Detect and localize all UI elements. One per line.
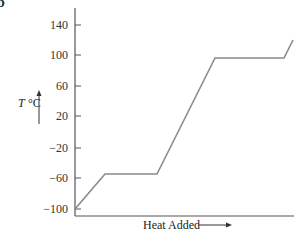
y-axis-label: T °C bbox=[18, 90, 42, 124]
y-label-t: T bbox=[18, 96, 26, 110]
x-axis-label: Heat Added bbox=[143, 218, 232, 232]
y-tick-neg100: −100 bbox=[43, 202, 68, 216]
heating-curve-chart: 140 100 60 20 −20 −60 −100 T °C Heat Add… bbox=[0, 0, 294, 232]
y-tick-60: 60 bbox=[56, 79, 68, 93]
x-label-text: Heat Added bbox=[143, 218, 200, 232]
y-tick-20: 20 bbox=[56, 109, 68, 123]
y-tick-neg60: −60 bbox=[49, 171, 68, 185]
y-tick-140: 140 bbox=[50, 18, 68, 32]
y-ticks bbox=[75, 25, 81, 209]
y-tick-100: 100 bbox=[50, 48, 68, 62]
y-tick-labels: 140 100 60 20 −20 −60 −100 bbox=[43, 18, 68, 216]
y-tick-neg20: −20 bbox=[49, 141, 68, 155]
heating-curve-line bbox=[75, 40, 293, 209]
